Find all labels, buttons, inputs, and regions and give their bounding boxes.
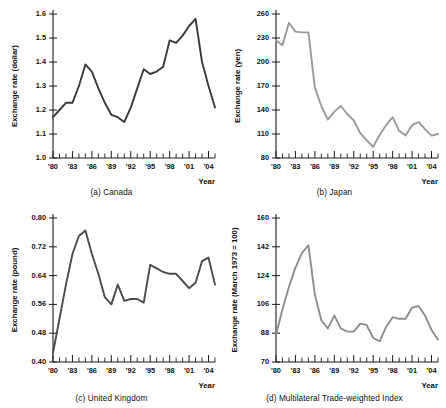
y-axis-title-canada: Exchange rate (dollar)	[10, 45, 19, 127]
panel-caption-uk: (c) United Kingdom	[0, 394, 223, 403]
x-tick-label-japan-0: '80	[271, 162, 281, 171]
data-series-mtwi	[276, 245, 438, 341]
data-series-japan	[276, 23, 438, 147]
chart-svg-japan: 80110140170200230260'80'83'86'89'92'95'9…	[223, 0, 446, 204]
x-tick-label-canada-5: '95	[145, 162, 155, 171]
x-tick-label-japan-1: '83	[290, 162, 300, 171]
y-tick-label-japan-6: 260	[257, 9, 269, 18]
x-tick-label-mtwi-2: '86	[310, 366, 320, 375]
x-tick-label-canada-8: '04	[204, 162, 215, 171]
x-tick-label-japan-3: '89	[329, 162, 339, 171]
chart-panel-mtwi: 7088106124142160'80'83'86'89'92'95'98'01…	[223, 204, 446, 408]
x-tick-label-canada-4: '92	[126, 162, 136, 171]
y-tick-label-canada-4: 1.4	[36, 57, 47, 66]
x-tick-label-uk-7: '01	[184, 366, 194, 375]
x-tick-label-japan-6: '98	[388, 162, 398, 171]
x-tick-label-japan-2: '86	[310, 162, 320, 171]
chart-svg-mtwi: 7088106124142160'80'83'86'89'92'95'98'01…	[223, 204, 446, 408]
x-axis-title-uk: Year	[199, 381, 215, 390]
x-tick-label-uk-6: '98	[165, 366, 175, 375]
y-tick-label-uk-3: 0.64	[32, 271, 47, 280]
y-tick-label-uk-4: 0.72	[32, 242, 46, 251]
x-tick-label-canada-2: '86	[87, 162, 97, 171]
y-tick-label-mtwi-5: 160	[257, 213, 269, 222]
y-axis-title-uk: Exchange rate (pound)	[10, 247, 19, 332]
y-tick-label-mtwi-0: 70	[261, 357, 269, 366]
y-tick-label-uk-0: 0.40	[32, 357, 46, 366]
y-tick-label-japan-2: 140	[257, 105, 269, 114]
y-tick-label-uk-1: 0.48	[32, 328, 46, 337]
y-tick-label-japan-3: 170	[257, 81, 269, 90]
data-series-canada	[53, 19, 215, 122]
panel-caption-canada: (a) Canada	[0, 188, 223, 197]
x-tick-label-canada-6: '98	[165, 162, 175, 171]
x-tick-label-uk-0: '80	[48, 366, 58, 375]
x-tick-label-mtwi-5: '95	[368, 366, 378, 375]
x-tick-label-mtwi-0: '80	[271, 366, 281, 375]
x-tick-label-mtwi-8: '04	[427, 366, 438, 375]
x-tick-label-canada-7: '01	[184, 162, 194, 171]
y-tick-label-canada-2: 1.2	[36, 105, 46, 114]
panel-caption-mtwi: (d) Multilateral Trade-weighted Index	[223, 394, 446, 403]
x-tick-label-canada-3: '89	[106, 162, 116, 171]
y-tick-label-canada-5: 1.5	[36, 33, 46, 42]
y-tick-label-uk-2: 0.56	[32, 299, 46, 308]
x-tick-label-mtwi-7: '01	[407, 366, 417, 375]
x-tick-label-uk-1: '83	[67, 366, 77, 375]
x-tick-label-japan-8: '04	[427, 162, 438, 171]
y-tick-label-japan-4: 200	[257, 57, 269, 66]
x-tick-label-mtwi-4: '92	[349, 366, 359, 375]
y-axis-title-japan: Exchange rate (yen)	[233, 49, 242, 124]
y-tick-label-canada-1: 1.1	[36, 129, 46, 138]
y-axis-title-mtwi: Exchange rate (March 1973 = 100)	[230, 227, 239, 352]
x-axis-title-canada: Year	[199, 177, 215, 186]
chart-panel-canada: 1.01.11.21.31.41.51.6'80'83'86'89'92'95'…	[0, 0, 223, 204]
chart-panel-japan: 80110140170200230260'80'83'86'89'92'95'9…	[223, 0, 446, 204]
exchange-rate-figure: 1.01.11.21.31.41.51.6'80'83'86'89'92'95'…	[0, 0, 446, 408]
x-tick-label-mtwi-6: '98	[388, 366, 398, 375]
x-tick-label-mtwi-3: '89	[329, 366, 339, 375]
data-series-uk	[53, 231, 215, 353]
y-tick-label-mtwi-2: 106	[257, 299, 269, 308]
y-tick-label-japan-5: 230	[257, 33, 269, 42]
x-tick-label-canada-1: '83	[67, 162, 77, 171]
x-tick-label-uk-5: '95	[145, 366, 155, 375]
panel-caption-japan: (b) Japan	[223, 188, 446, 197]
x-axis-title-mtwi: Year	[422, 381, 438, 390]
x-axis-title-japan: Year	[422, 177, 438, 186]
chart-svg-uk: 0.400.480.560.640.720.80'80'83'86'89'92'…	[0, 204, 223, 408]
y-tick-label-canada-6: 1.6	[36, 9, 46, 18]
y-tick-label-mtwi-4: 142	[257, 242, 269, 251]
x-tick-label-uk-4: '92	[126, 366, 136, 375]
x-tick-label-japan-7: '01	[407, 162, 417, 171]
y-tick-label-mtwi-1: 88	[261, 328, 269, 337]
chart-panel-uk: 0.400.480.560.640.720.80'80'83'86'89'92'…	[0, 204, 223, 408]
x-tick-label-uk-2: '86	[87, 366, 97, 375]
x-tick-label-japan-4: '92	[349, 162, 359, 171]
y-tick-label-uk-5: 0.80	[32, 213, 46, 222]
x-tick-label-uk-3: '89	[106, 366, 116, 375]
x-tick-label-canada-0: '80	[48, 162, 58, 171]
y-tick-label-japan-1: 110	[257, 129, 269, 138]
y-tick-label-canada-3: 1.3	[36, 81, 46, 90]
y-tick-label-mtwi-3: 124	[257, 271, 270, 280]
chart-svg-canada: 1.01.11.21.31.41.51.6'80'83'86'89'92'95'…	[0, 0, 223, 204]
x-tick-label-mtwi-1: '83	[290, 366, 300, 375]
y-tick-label-japan-0: 80	[261, 153, 269, 162]
x-tick-label-uk-8: '04	[204, 366, 215, 375]
x-tick-label-japan-5: '95	[368, 162, 378, 171]
y-tick-label-canada-0: 1.0	[36, 153, 46, 162]
